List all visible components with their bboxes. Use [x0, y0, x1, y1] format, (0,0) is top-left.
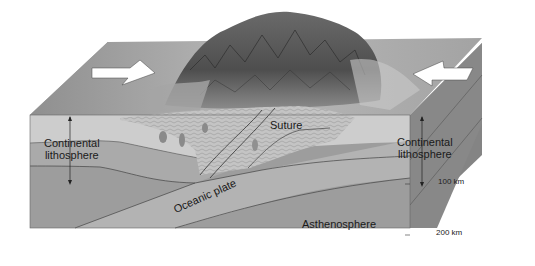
suture-label: Suture — [270, 120, 302, 132]
depth-100km-label: 100 km — [438, 178, 464, 186]
depth-200km-label: 200 km — [436, 229, 462, 237]
collision-diagram: Continental lithosphere Continental lith… — [0, 0, 535, 266]
label-line: lithosphere — [397, 149, 453, 161]
continental-lithosphere-right-label: Continental lithosphere — [397, 137, 453, 160]
asthenosphere-label: Asthenosphere — [302, 219, 376, 231]
mountain-range — [150, 12, 420, 112]
label-line: Continental — [397, 137, 453, 149]
label-line: Continental — [44, 138, 100, 150]
continental-lithosphere-left-label: Continental lithosphere — [44, 138, 100, 161]
label-line: lithosphere — [44, 150, 100, 162]
block-diagram-graphic — [0, 0, 535, 266]
